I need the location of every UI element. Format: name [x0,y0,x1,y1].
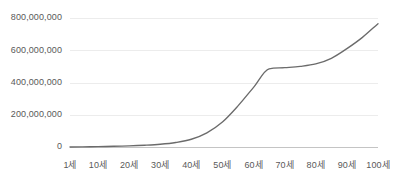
y-axis-tick-label: 200,000,000 [11,109,62,119]
x-axis-tick-label: 10세 [89,160,107,170]
y-axis-tick-label: 0 [57,141,62,151]
x-axis-tick-label: 100세 [366,160,389,170]
chart-container: 0200,000,000400,000,000600,000,000800,00… [0,0,393,182]
y-axis-tick-label: 800,000,000 [11,12,62,22]
x-axis-tick-label: 40세 [182,160,200,170]
y-axis-tick-label: 400,000,000 [11,77,62,87]
x-axis-tick-label: 1세 [63,160,76,170]
chart-background [0,0,393,182]
x-axis-tick-label: 60세 [244,160,262,170]
x-axis-tick-label: 80세 [307,160,325,170]
x-axis-tick-label: 90세 [338,160,356,170]
x-axis-tick-label: 50세 [213,160,231,170]
x-axis-tick-label: 20세 [120,160,138,170]
y-axis-tick-label: 600,000,000 [11,45,62,55]
line-chart: 0200,000,000400,000,000600,000,000800,00… [0,0,393,182]
x-axis-tick-label: 70세 [276,160,294,170]
x-axis-tick-label: 30세 [151,160,169,170]
